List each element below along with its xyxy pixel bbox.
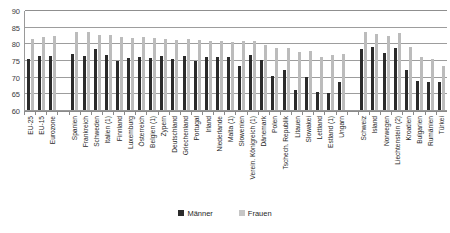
bar-frauen (375, 34, 378, 111)
plot-area (24, 11, 447, 111)
x-axis-category: Slowenien (235, 116, 246, 202)
x-axis-tick (102, 111, 113, 115)
bar-group (303, 11, 314, 111)
bar-frauen (387, 36, 390, 111)
bar-group-spacer (58, 11, 69, 111)
x-axis-tick (113, 111, 124, 115)
bar-group (247, 11, 258, 111)
bar-maenner (27, 59, 30, 111)
bar-group (369, 11, 380, 111)
x-axis-tick (213, 111, 224, 115)
bar-group (103, 11, 114, 111)
bar-frauen (31, 39, 34, 111)
x-axis-category-label: Tschech. Republik (282, 116, 289, 170)
bar-group (203, 11, 214, 111)
x-axis-tick (347, 111, 358, 115)
bar-maenner (271, 76, 274, 111)
bar-frauen (398, 33, 401, 111)
bar-frauen (364, 32, 367, 111)
bar-frauen (287, 48, 290, 111)
x-axis-category: Slowakei (302, 116, 313, 202)
x-axis-tick (269, 111, 280, 115)
bar-frauen (320, 57, 323, 111)
x-axis-category-label: Deutschland (171, 116, 178, 153)
bar-maenner (94, 49, 97, 111)
bar-frauen (153, 38, 156, 111)
x-axis-tick (46, 111, 57, 115)
bar-maenner (427, 82, 430, 111)
x-axis-category-label: Türkei (438, 116, 445, 134)
bar-maenner (249, 55, 252, 111)
bar-group (92, 11, 103, 111)
bar-frauen (209, 41, 212, 111)
bar-group (25, 11, 36, 111)
bar-maenner (360, 49, 363, 111)
x-axis-category: Bulgarien (413, 116, 424, 202)
x-axis-category: Schweiz (358, 116, 369, 202)
bar-group (425, 11, 436, 111)
x-axis-category: Deutschland (169, 116, 180, 202)
bar-maenner (294, 90, 297, 111)
bar-frauen (242, 41, 245, 111)
x-axis-category-label: Spanien (71, 116, 78, 140)
bar-maenner (283, 70, 286, 111)
x-axis-category: EU-25 (24, 116, 35, 202)
bar-maenner (394, 48, 397, 111)
bar-maenner (71, 54, 74, 111)
x-axis-category: Polen (269, 116, 280, 202)
x-axis-category (347, 116, 358, 202)
x-axis-category: Dänemark (258, 116, 269, 202)
bar-group (403, 11, 414, 111)
x-axis-category: Luxemburg (124, 116, 135, 202)
x-axis-tick (280, 111, 291, 115)
cut-off-footer-text (6, 224, 126, 231)
x-axis-tick (169, 111, 180, 115)
bar-maenner (83, 56, 86, 111)
bar-frauen (98, 35, 101, 111)
bar-maenner (194, 61, 197, 111)
bar-maenner (127, 58, 130, 111)
legend-swatch-frauen (239, 210, 245, 216)
legend-swatch-maenner (178, 210, 184, 216)
y-axis-tick-label: 90 (12, 8, 20, 15)
bar-group (392, 11, 403, 111)
x-axis-category-label: Bulgarien (415, 116, 422, 144)
legend-item-maenner: Männer (178, 209, 212, 218)
x-axis-category-label: Verein. Königreich (1) (249, 116, 256, 179)
bar-maenner (205, 57, 208, 111)
x-axis-category-label: Island (371, 116, 378, 134)
x-axis-tick (324, 111, 335, 115)
bar-group (47, 11, 58, 111)
x-axis-category-label: Slowakei (304, 116, 311, 142)
bar-groups (25, 11, 447, 111)
bar-frauen (298, 52, 301, 111)
bar-frauen (420, 57, 423, 111)
x-axis-tick (224, 111, 235, 115)
bar-maenner (338, 82, 341, 111)
bar-frauen (431, 59, 434, 111)
x-axis-category-label: Zypern (160, 116, 167, 137)
x-axis-category-label: Griechenland (182, 116, 189, 155)
x-axis-tick (135, 111, 146, 115)
bar-maenner (138, 57, 141, 111)
bar-group (292, 11, 303, 111)
x-axis-tick (413, 111, 424, 115)
bar-group (147, 11, 158, 111)
bar-maenner (183, 56, 186, 111)
x-axis-tick (247, 111, 258, 115)
x-axis-category-label: Schweiz (360, 116, 367, 141)
x-axis-ticks (24, 111, 447, 115)
bar-frauen (309, 51, 312, 111)
bar-maenner (371, 47, 374, 111)
x-axis-category: Island (369, 116, 380, 202)
x-axis-tick (146, 111, 157, 115)
bar-frauen (175, 40, 178, 111)
bar-maenner (405, 70, 408, 111)
x-axis-tick (24, 111, 35, 115)
x-axis-category: Schweden (91, 116, 102, 202)
x-axis-tick (235, 111, 246, 115)
x-axis-tick (57, 111, 68, 115)
bar-group (269, 11, 280, 111)
bar-group (192, 11, 203, 111)
x-axis-tick (124, 111, 135, 115)
